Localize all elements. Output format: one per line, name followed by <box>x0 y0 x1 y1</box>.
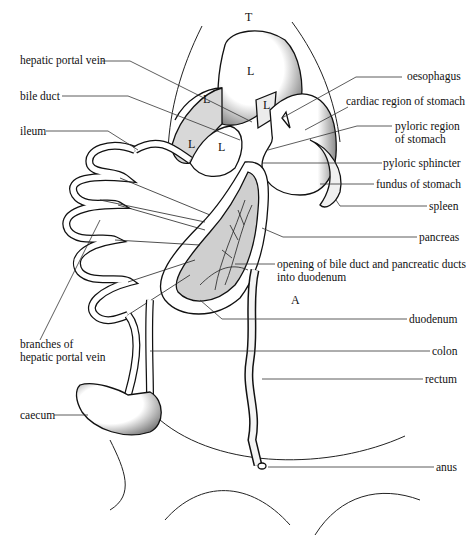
label-ileum: ileum <box>20 125 46 138</box>
label-pyloric-sphincter: pyloric sphincter <box>383 157 461 170</box>
label-anus: anus <box>436 461 457 474</box>
label-colon: colon <box>432 345 458 358</box>
label-bile-duct: bile duct <box>20 90 60 103</box>
rectum <box>249 270 266 469</box>
region-letter-liver: L <box>188 137 195 152</box>
region-letter-liver: L <box>247 64 254 79</box>
label-caecum: caecum <box>20 409 55 422</box>
label-duodenum: duodenum <box>409 313 458 326</box>
label-oesophagus: oesophagus <box>407 70 461 83</box>
label-cardiac-region-of-stomach: cardiac region of stomach <box>346 95 465 108</box>
label-pyloric-region-of-stomach: pyloric region of stomach <box>395 120 460 146</box>
digestive-system-diagram: T L L L L L A hepatic portal vein bile d… <box>0 0 472 547</box>
label-branches-of-hepatic-portal-vein: branches of hepatic portal vein <box>20 338 106 364</box>
label-spleen: spleen <box>429 200 458 213</box>
label-pancreas: pancreas <box>419 231 459 244</box>
region-letter-T: T <box>245 10 252 25</box>
region-letter-liver: L <box>218 140 225 155</box>
label-hepatic-portal-vein: hepatic portal vein <box>20 54 106 67</box>
region-letter-A: A <box>291 293 300 308</box>
label-opening-of-ducts: opening of bile duct and pancreatic duct… <box>277 258 466 284</box>
region-letter-liver: L <box>263 98 270 113</box>
stomach <box>262 94 341 207</box>
label-fundus-of-stomach: fundus of stomach <box>376 178 461 191</box>
region-letter-liver: L <box>203 92 210 107</box>
label-rectum: rectum <box>425 373 457 386</box>
